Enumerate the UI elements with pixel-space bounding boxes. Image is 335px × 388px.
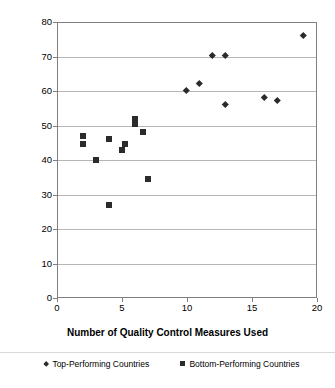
legend-label: Bottom-Performing Countries	[189, 359, 299, 369]
y-axis-tick-mark	[53, 160, 57, 161]
x-axis-tick-mark	[187, 298, 188, 302]
legend-entry-bottom-performing: Bottom-Performing Countries	[180, 359, 299, 370]
gridline-y	[58, 229, 316, 230]
scatter-chart-figure: 0102030405060708005101520 Number of Qual…	[0, 0, 335, 388]
x-axis-tick-mark	[252, 298, 253, 302]
y-axis-tick-label: 0	[12, 293, 52, 303]
x-axis-tick-mark	[57, 298, 58, 302]
gridline-y	[58, 264, 316, 265]
legend-label: Top-Performing Countries	[52, 359, 149, 369]
gridline-y	[58, 57, 316, 58]
x-axis-tick-label: 20	[297, 303, 335, 313]
x-axis-tick-mark	[317, 298, 318, 302]
x-axis-tick-mark	[122, 298, 123, 302]
y-axis-tick-mark	[53, 264, 57, 265]
y-axis-tick-mark	[53, 229, 57, 230]
x-axis-title: Number of Quality Control Measures Used	[0, 327, 335, 338]
x-axis-tick-label: 15	[232, 303, 272, 313]
x-axis-tick-label: 5	[102, 303, 142, 313]
y-axis-tick-label: 40	[12, 155, 52, 165]
y-axis-tick-label: 10	[12, 259, 52, 269]
y-axis-tick-mark	[53, 195, 57, 196]
y-axis-tick-mark	[53, 126, 57, 127]
x-axis-tick-label: 10	[167, 303, 207, 313]
y-axis-tick-label: 80	[12, 17, 52, 27]
y-axis-tick-label: 50	[12, 121, 52, 131]
y-axis-tick-label: 20	[12, 224, 52, 234]
chart-legend: Top-Performing Countries Bottom-Performi…	[0, 352, 335, 388]
legend-entry-top-performing: Top-Performing Countries	[44, 359, 149, 370]
square-marker-icon	[180, 361, 185, 366]
y-axis-tick-label: 70	[12, 52, 52, 62]
y-axis-tick-mark	[53, 57, 57, 58]
chart-title	[0, 0, 335, 3]
gridline-y	[58, 195, 316, 196]
y-axis-tick-mark	[53, 91, 57, 92]
x-axis-tick-label: 0	[37, 303, 77, 313]
diamond-marker-icon	[43, 361, 49, 367]
y-axis-tick-label: 30	[12, 190, 52, 200]
gridline-y	[58, 126, 316, 127]
y-axis-tick-label: 60	[12, 86, 52, 96]
y-axis-tick-mark	[53, 22, 57, 23]
